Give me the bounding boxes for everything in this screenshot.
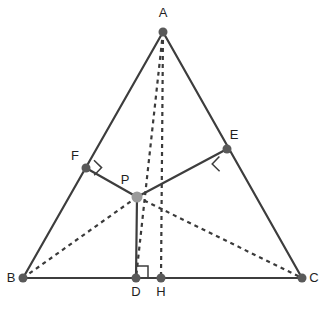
side-AB: [23, 32, 163, 278]
vertex-dot-F: [82, 164, 91, 173]
segment-AH: [161, 32, 163, 278]
side-AC: [163, 32, 302, 278]
vertex-dot-P: [132, 192, 143, 203]
geometry-figure: A B C D E F H P: [0, 0, 325, 312]
vertex-label-D: D: [131, 284, 140, 299]
vertex-label-A: A: [159, 5, 168, 20]
segment-PE: [137, 149, 227, 197]
geometry-canvas: A B C D E F H P: [0, 0, 325, 312]
right-angle-at-E: [212, 156, 219, 171]
vertex-dot-E: [223, 145, 232, 154]
segment-AD: [136, 32, 163, 278]
vertex-label-B: B: [7, 270, 16, 285]
vertex-dot-H: [157, 274, 166, 283]
vertex-dot-D: [132, 274, 141, 283]
vertex-label-H: H: [156, 284, 165, 299]
vertex-dot-C: [298, 274, 307, 283]
segment-PF: [86, 168, 137, 197]
vertex-dot-A: [159, 28, 168, 37]
segment-PB: [23, 197, 137, 278]
vertex-label-E: E: [230, 127, 239, 142]
vertex-dot-B: [19, 274, 28, 283]
vertex-label-F: F: [71, 148, 79, 163]
vertex-label-P: P: [121, 172, 130, 187]
vertex-label-C: C: [309, 270, 318, 285]
